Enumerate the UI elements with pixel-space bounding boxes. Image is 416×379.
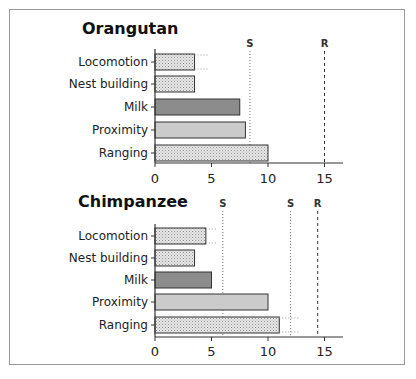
bar-locomotion [155, 228, 206, 244]
x-tick-label: 0 [151, 344, 159, 359]
category-label: Nest building [69, 251, 148, 265]
category-label: Locomotion [78, 229, 148, 243]
x-tick-label: 5 [207, 171, 215, 186]
bar-proximity [155, 122, 245, 138]
reference-label: R [321, 38, 329, 49]
x-tick-label: 15 [316, 344, 333, 359]
bar-locomotion [155, 54, 195, 70]
category-label: Milk [124, 273, 148, 287]
category-label: Ranging [99, 318, 148, 332]
reference-label: S [246, 38, 253, 49]
reference-label: S [219, 198, 226, 209]
panel-title: Orangutan [82, 19, 178, 38]
category-label: Nest building [69, 77, 148, 91]
orangutan-panel: OrangutanSRLocomotionNest buildingMilkPr… [69, 19, 343, 186]
chimpanzee-panel: ChimpanzeeSSRLocomotionNest buildingMilk… [69, 192, 343, 359]
bar-nest-building [155, 250, 195, 266]
reference-label: S [287, 198, 294, 209]
bar-milk [155, 99, 240, 115]
x-tick-label: 10 [260, 171, 277, 186]
x-tick-label: 10 [260, 344, 277, 359]
bar-nest-building [155, 76, 195, 92]
bar-milk [155, 272, 212, 288]
x-tick-label: 0 [151, 171, 159, 186]
reference-label: R [314, 198, 322, 209]
panel-title: Chimpanzee [78, 192, 188, 211]
category-label: Proximity [92, 123, 148, 137]
bar-proximity [155, 294, 268, 310]
category-label: Proximity [92, 295, 148, 309]
category-label: Ranging [99, 146, 148, 160]
bar-ranging [155, 317, 279, 333]
x-tick-label: 5 [207, 344, 215, 359]
category-label: Milk [124, 100, 148, 114]
chart-canvas: OrangutanSRLocomotionNest buildingMilkPr… [0, 0, 416, 379]
x-tick-label: 15 [316, 171, 333, 186]
category-label: Locomotion [78, 55, 148, 69]
bar-ranging [155, 145, 268, 161]
